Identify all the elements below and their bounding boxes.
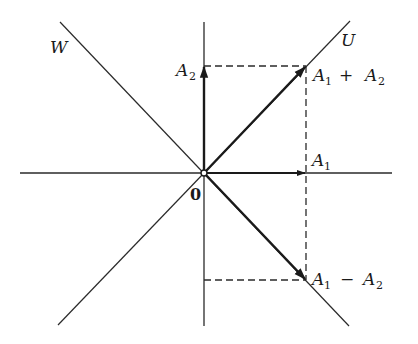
- svg-text:A: A: [361, 269, 375, 289]
- svg-text:2: 2: [189, 70, 196, 83]
- svg-text:2: 2: [378, 75, 385, 88]
- svg-text:1: 1: [325, 75, 332, 88]
- svg-text:A: A: [174, 60, 188, 80]
- svg-text:A: A: [363, 65, 377, 85]
- label-a1: A 1: [310, 150, 331, 173]
- label-origin: 0: [190, 185, 201, 204]
- svg-text:A: A: [310, 150, 324, 170]
- label-a1-minus-a2: A 1 − A 2: [310, 269, 383, 292]
- vector-a1-minus-a2: [206, 175, 305, 279]
- label-a1-plus-a2: A 1 + A 2: [311, 65, 385, 88]
- svg-text:2: 2: [376, 279, 383, 292]
- origin-point: [201, 170, 207, 176]
- svg-text:−: −: [340, 269, 354, 289]
- svg-text:A: A: [310, 269, 324, 289]
- label-u: U: [341, 30, 356, 50]
- svg-text:1: 1: [324, 279, 331, 292]
- svg-text:+: +: [339, 65, 353, 85]
- label-w: W: [50, 37, 69, 57]
- vector-decomposition-diagram: W U A 2 A 1 A 1 + A 2 A 1 − A 2 0: [0, 0, 418, 344]
- label-a2: A 2: [174, 60, 196, 83]
- svg-text:A: A: [311, 65, 325, 85]
- vector-a1-plus-a2: [206, 67, 305, 171]
- svg-text:1: 1: [324, 160, 331, 173]
